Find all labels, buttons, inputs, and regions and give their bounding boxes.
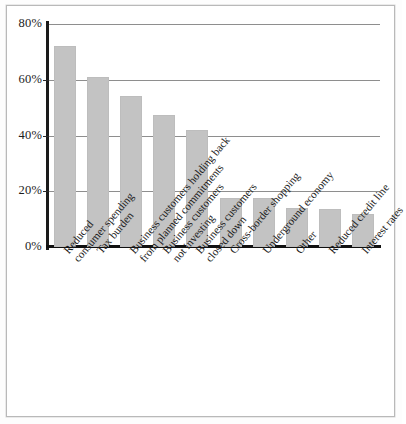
- y-axis-tick-mark: [43, 80, 49, 81]
- y-axis-tick-label: 40%: [0, 128, 42, 143]
- bar: [54, 46, 76, 247]
- y-axis-tick-label: 80%: [0, 16, 42, 31]
- x-axis-category-labels: Reducedconsumer spendingTax burdenBusine…: [0, 248, 402, 418]
- y-axis-tick-label: 20%: [0, 183, 42, 198]
- y-axis-tick-mark: [43, 136, 49, 137]
- y-axis-tick-label: 60%: [0, 72, 42, 87]
- y-axis-tick-mark: [43, 191, 49, 192]
